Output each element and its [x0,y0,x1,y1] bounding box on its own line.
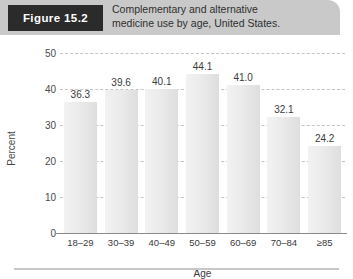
x-axis-tick-label: 60–69 [221,237,265,248]
bottom-divider [14,268,339,270]
bar-value-label: 32.1 [274,104,293,115]
bar [105,90,138,233]
bar-chart: Percent 01020304050 36.339.640.144.141.0… [0,35,353,250]
bar [145,89,178,233]
figure-caption-line-2: medicine use by age, United States. [112,17,334,31]
x-axis-tick-label: 30–39 [99,237,143,248]
y-axis-title: Percent [6,104,17,194]
plot-area: 36.339.640.144.141.032.124.2 Age [60,53,345,233]
y-axis-tick-label: 40 [16,84,56,95]
x-axis-tick-label: 40–49 [140,237,184,248]
x-axis-tick-label: 18–29 [58,237,102,248]
bar-value-label: 40.1 [152,76,171,87]
bar-value-label: 36.3 [71,89,90,100]
figure-number-label: Figure 15.2 [23,12,88,24]
figure-number-badge: Figure 15.2 [8,5,103,31]
figure-caption-line-1: Complementary and alternative [112,3,334,17]
bar [64,102,97,233]
bar-value-label: 39.6 [111,77,130,88]
bar [267,117,300,233]
bar-value-label: 41.0 [233,72,252,83]
x-axis-line [56,233,347,234]
bar [308,146,341,233]
x-axis-tick-label: ≥85 [303,237,347,248]
y-axis-tick-label: 30 [16,120,56,131]
y-axis-tick-label: 10 [16,192,56,203]
bar [186,74,219,233]
bar-value-label: 24.2 [315,133,334,144]
bar [227,85,260,233]
y-axis-tick-label: 20 [16,156,56,167]
x-axis-tick-label: 50–59 [181,237,225,248]
figure-caption: Complementary and alternative medicine u… [112,3,334,30]
figure-header-banner: Figure 15.2 Complementary and alternativ… [0,0,340,35]
x-axis-tick-label: 70–84 [262,237,306,248]
gridline [60,53,345,54]
y-axis-tick-label: 0 [16,228,56,239]
y-axis-tick-label: 50 [16,48,56,59]
bar-value-label: 44.1 [193,61,212,72]
